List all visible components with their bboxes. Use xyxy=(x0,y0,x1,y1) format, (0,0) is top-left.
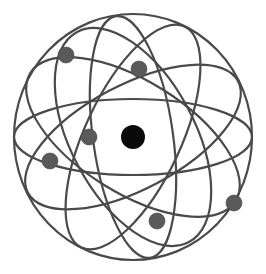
electron-icon xyxy=(149,213,165,229)
electron-icon xyxy=(42,153,58,169)
electron-icon xyxy=(58,47,74,63)
electron-icon xyxy=(81,129,97,145)
atom-illustration xyxy=(0,0,266,274)
nucleus-icon xyxy=(121,125,145,149)
electron-icon xyxy=(131,61,147,77)
electron-icon xyxy=(226,195,242,211)
